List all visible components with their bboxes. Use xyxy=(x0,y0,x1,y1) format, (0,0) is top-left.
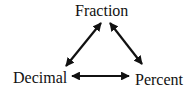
arrow-fraction-percent xyxy=(110,23,142,64)
arrows-layer xyxy=(0,0,194,90)
conversion-triangle-diagram: Fraction Decimal Percent xyxy=(0,0,194,90)
arrow-fraction-decimal xyxy=(66,23,101,66)
